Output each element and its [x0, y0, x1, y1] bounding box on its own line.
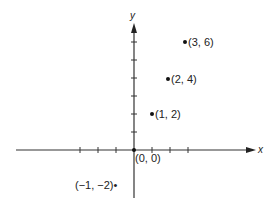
point-2-4	[166, 77, 170, 81]
label-origin: (0, 0)	[135, 152, 161, 164]
label-neg1-neg2: (−1, −2)•	[75, 179, 118, 191]
coordinate-plane: x y (0, 0) (1, 2) (2, 4) (3, 6) (−1, −2)…	[0, 0, 274, 207]
y-axis-label: y	[129, 10, 136, 21]
x-axis-arrow-icon	[246, 147, 256, 153]
label-1-2: (1, 2)	[155, 108, 181, 120]
y-axis-arrow-icon	[131, 23, 137, 33]
label-3-6: (3, 6)	[188, 36, 214, 48]
x-axis-label: x	[257, 144, 264, 155]
label-2-4: (2, 4)	[171, 73, 197, 85]
point-1-2	[150, 112, 154, 116]
point-3-6	[183, 40, 187, 44]
